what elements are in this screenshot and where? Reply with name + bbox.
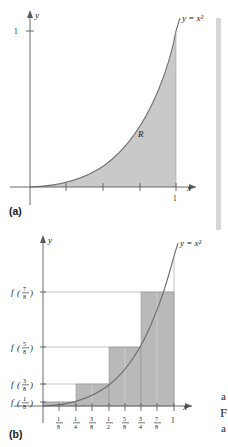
panel-b-caption: (b) [9, 428, 22, 440]
y-axis-arrow-a [27, 10, 33, 18]
curve-label-b: y = x² [179, 238, 202, 248]
svg-text:): ) [29, 343, 33, 353]
x-tick-label-7-8: 7 8 [154, 416, 161, 430]
svg-text:): ) [29, 288, 33, 298]
margin-text-line-1: a [221, 391, 226, 402]
x-tick-label-1-8: 1 8 [56, 416, 63, 430]
x-label-1-8-den: 8 [57, 424, 60, 430]
figure-page: x y 1 1 y = x² R (a) [0, 0, 228, 447]
shaded-region-r [30, 31, 176, 187]
y-axis-label-b: y [47, 235, 52, 245]
y-label-f-3-8-den: 8 [23, 386, 26, 392]
y-axis-arrow-b [40, 235, 46, 243]
y-axis-label-a: y [34, 10, 39, 20]
x-tick-label-one-b: 1 [171, 416, 175, 425]
x-label-7-8-num: 7 [155, 416, 158, 422]
y-label-f-1-8-func: f [11, 397, 15, 407]
x-label-1-4-num: 1 [74, 416, 77, 422]
y-axis-label-f-seven-eighths: f ( 7 8 ) [11, 286, 33, 300]
x-label-1-2-num: 1 [107, 416, 110, 422]
x-label-3-4-den: 4 [139, 424, 142, 430]
x-label-3-4-num: 3 [139, 416, 142, 422]
x-tick-label-5-8: 5 8 [122, 416, 129, 430]
x-axis-label-a: x [186, 183, 191, 193]
panel-a-plot: x y 1 1 y = x² R [0, 0, 205, 228]
x-tick-label-1-4: 1 4 [73, 416, 80, 430]
curve-label-a: y = x² [181, 13, 204, 23]
y-label-f-5-8-num: 5 [23, 341, 26, 347]
x-axis-label-b: x [182, 402, 187, 412]
figure-panel-b: x y y = x² f ( 7 8 ) f ( 5 8 ) [0, 225, 205, 447]
x-label-7-8-den: 8 [155, 424, 158, 430]
panel-a-caption: (a) [9, 205, 22, 217]
y-axis-label-f-five-eighths: f ( 5 8 ) [11, 341, 33, 355]
margin-text-line-3: a [221, 423, 226, 434]
x-tick-label-one-a: 1 [173, 194, 177, 203]
x-label-1-4-den: 4 [74, 424, 77, 430]
y-tick-label-one-a: 1 [14, 27, 18, 36]
y-label-f-1-8-num: 1 [23, 396, 26, 402]
y-label-f-7-8-den: 8 [23, 294, 26, 300]
y-axis-label-f-three-eighths: f ( 3 8 ) [11, 378, 33, 392]
panel-b-plot: x y y = x² f ( 7 8 ) f ( 5 8 ) [0, 225, 205, 447]
y-axis-label-f-one-eighth: f ( 1 8 ) [11, 396, 33, 410]
figure-panel-a: x y 1 1 y = x² R [0, 0, 205, 228]
svg-text:(: ( [17, 343, 21, 353]
x-label-1-8-num: 1 [57, 416, 60, 422]
page-side-rule [216, 18, 221, 230]
x-label-5-8-num: 5 [123, 416, 126, 422]
y-label-f-7-8-func: f [11, 287, 15, 297]
svg-text:(: ( [17, 288, 21, 298]
x-tick-label-1-2: 1 2 [106, 416, 113, 430]
x-label-3-8-num: 3 [90, 416, 93, 422]
y-label-f-1-8-den: 8 [23, 404, 26, 410]
x-label-1-2-den: 2 [107, 424, 110, 430]
y-label-f-7-8-num: 7 [23, 286, 26, 292]
x-tick-label-3-4: 3 4 [138, 416, 145, 430]
y-label-f-5-8-func: f [11, 342, 15, 352]
x-label-5-8-den: 8 [123, 424, 126, 430]
y-label-f-3-8-num: 3 [23, 378, 26, 384]
svg-text:): ) [29, 380, 33, 390]
svg-text:): ) [29, 398, 33, 408]
y-label-f-5-8-den: 8 [23, 349, 26, 355]
x-tick-label-3-8: 3 8 [89, 416, 96, 430]
x-label-3-8-den: 8 [90, 424, 93, 430]
y-label-f-3-8-func: f [11, 379, 15, 389]
svg-text:(: ( [17, 398, 21, 408]
margin-text-line-2: F [220, 406, 227, 419]
svg-text:(: ( [17, 380, 21, 390]
region-label-r: R [137, 129, 144, 139]
